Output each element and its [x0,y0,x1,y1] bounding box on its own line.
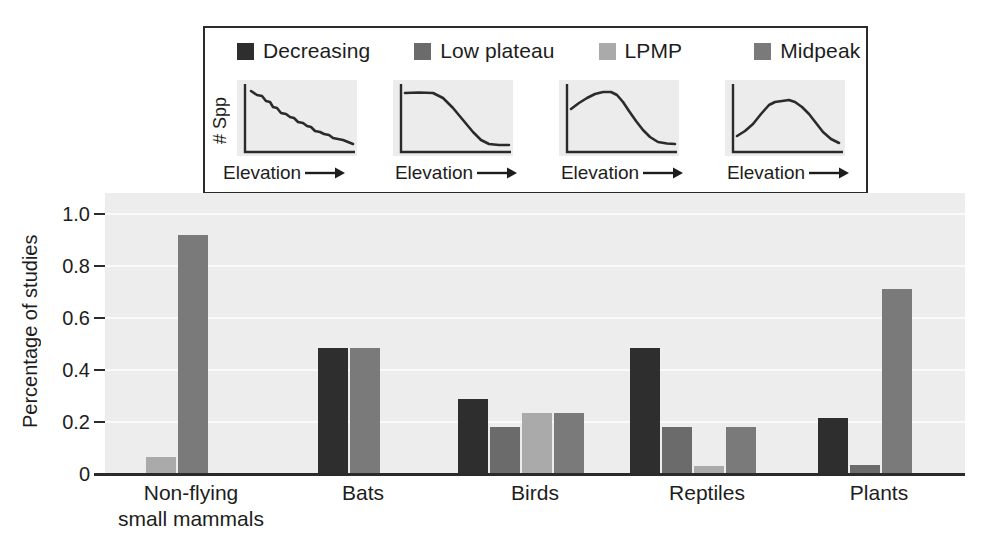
bar [178,235,208,474]
y-tick-label: 0.6 [62,306,90,329]
figure-root: Decreasing Low plateau LPMP Midpeak # Sp… [0,0,998,548]
gridline [105,265,965,267]
mini-xlabel-midpeak: Elevation [707,162,869,184]
mini-xlabel-decreasing: Elevation [209,162,371,184]
bar [554,413,584,474]
y-tick-label: 0.4 [62,358,90,381]
mini-plot-midpeak [725,80,845,156]
legend-key-row: Decreasing Low plateau LPMP Midpeak [205,34,866,68]
legend-swatch-lpmp [599,43,616,60]
legend-label-low-plateau: Low plateau [440,39,554,63]
legend-entry-lpmp: LPMP [599,39,683,63]
plot-area [105,193,965,474]
mini-plot-low-plateau [393,80,513,156]
x-category-label: Plants [793,480,965,506]
arrow-right-icon [305,166,345,180]
y-tick-mark [94,369,105,371]
bar [726,427,756,474]
mini-panel-decreasing: # Spp Elevation [205,72,371,194]
x-category-label: Non-flying small mammals [105,480,277,532]
y-axis-title: Percentage of studies [16,196,44,466]
y-tick-label: 0 [79,463,90,486]
mini-xlabel-low-plateau: Elevation [375,162,537,184]
bar [662,427,692,474]
bar [522,413,552,474]
legend-label-decreasing: Decreasing [263,39,370,63]
y-tick-mark [94,213,105,215]
mini-panel-lpmp: Elevation [537,72,703,194]
gridline [105,213,965,215]
arrow-right-icon [809,166,849,180]
legend-entry-decreasing: Decreasing [237,39,370,63]
mini-ylabel-decreasing: # Spp [208,86,232,154]
legend-swatch-low-plateau [414,43,431,60]
bar [146,457,176,474]
mini-plot-decreasing [237,80,357,156]
bar [318,348,348,474]
x-axis-line [94,473,965,476]
y-tick-label: 1.0 [62,202,90,225]
mini-plot-lpmp [559,80,679,156]
mini-panel-midpeak: Elevation [703,72,869,194]
legend-label-lpmp: LPMP [625,39,683,63]
legend-label-midpeak: Midpeak [780,39,860,63]
y-tick-label: 0.2 [62,410,90,433]
x-category-label: Reptiles [621,480,793,506]
bar [882,289,912,474]
x-category-label: Bats [277,480,449,506]
y-tick-mark [94,317,105,319]
bar [350,348,380,474]
y-tick-label: 0.8 [62,254,90,277]
mini-xlabel-text-midpeak: Elevation [727,162,805,184]
bar [630,348,660,474]
arrow-right-icon [643,166,683,180]
legend-box: Decreasing Low plateau LPMP Midpeak # Sp… [203,26,868,194]
mini-xlabel-lpmp: Elevation [541,162,703,184]
y-axis-tick-marks [94,180,105,490]
x-axis-category-labels: Non-flying small mammalsBatsBirdsReptile… [105,480,965,546]
mini-panel-low-plateau: Elevation [371,72,537,194]
mini-xlabel-text-low-plateau: Elevation [395,162,473,184]
bar [458,399,488,474]
bar [490,427,520,474]
legend-swatch-decreasing [237,43,254,60]
x-category-label: Birds [449,480,621,506]
y-tick-mark [94,265,105,267]
y-axis-tick-labels: 00.20.40.60.81.0 [44,180,90,490]
gridline [105,369,965,371]
y-tick-mark [94,421,105,423]
legend-entry-low-plateau: Low plateau [414,39,554,63]
mini-panel-row: # Spp Elevation [205,72,866,194]
mini-xlabel-text-decreasing: Elevation [223,162,301,184]
arrow-right-icon [477,166,517,180]
bar [818,418,848,474]
mini-xlabel-text-lpmp: Elevation [561,162,639,184]
gridline [105,317,965,319]
legend-entry-midpeak: Midpeak [754,39,860,63]
legend-swatch-midpeak [754,43,771,60]
